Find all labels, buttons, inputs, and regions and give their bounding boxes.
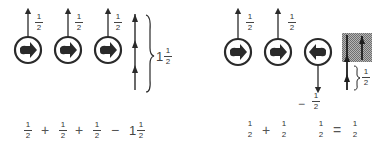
- right-particle-3-label: 12: [312, 92, 320, 111]
- total-whole: 1: [156, 50, 163, 63]
- plus-operator: +: [262, 123, 270, 137]
- eq-term: 12: [317, 120, 325, 139]
- equals-operator: =: [333, 123, 341, 137]
- right-particle-2-label: 12: [288, 13, 296, 32]
- minus-operator: −: [111, 123, 119, 137]
- eq-term: 12: [280, 120, 288, 139]
- total-fraction: 12: [164, 47, 172, 66]
- negative-sign: −: [298, 97, 305, 111]
- sum-vector-arrow-icon: [132, 14, 138, 90]
- spin-diagram: [0, 0, 384, 152]
- left-particle-1-label: 12: [35, 13, 43, 32]
- eq-term: 12: [246, 120, 254, 139]
- right-brace-icon: [146, 15, 154, 92]
- eq-term: 12: [137, 121, 145, 140]
- eq-term: 12: [59, 121, 67, 140]
- eq-term: 12: [24, 121, 32, 140]
- plus-operator: +: [75, 123, 83, 137]
- net-label: 12: [362, 68, 370, 87]
- left-particle-3-label: 12: [114, 13, 122, 32]
- eq-term: 12: [93, 121, 101, 140]
- eq-term: 12: [351, 120, 359, 139]
- right-particle-3: [305, 39, 331, 90]
- eq-whole: 1: [129, 124, 136, 137]
- small-brace-icon: [354, 66, 360, 90]
- left-particle-2-label: 12: [75, 13, 83, 32]
- right-particle-1-label: 12: [246, 13, 254, 32]
- plus-operator: +: [41, 123, 49, 137]
